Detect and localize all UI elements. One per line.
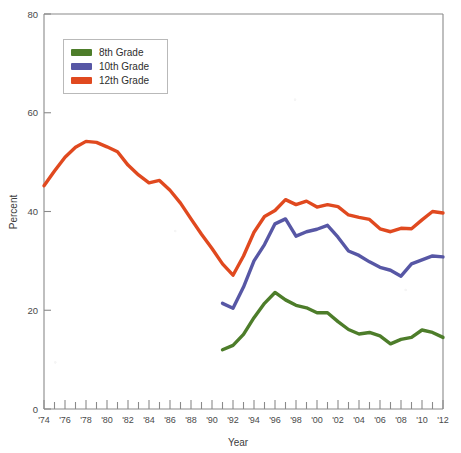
- x-tick-label: '74: [38, 415, 50, 425]
- x-tick-label: '96: [269, 415, 281, 425]
- y-tick-label: 60: [27, 107, 38, 118]
- legend-item-10th-grade: 10th Grade: [71, 60, 161, 73]
- x-tick-label: '04: [353, 415, 365, 425]
- x-tick-label: '00: [311, 415, 323, 425]
- chart-container: 020406080 '74'76'78'80'82'84'86'88'90'92…: [0, 0, 461, 453]
- data-series-group: [44, 141, 443, 349]
- legend-swatch-10th-grade: [71, 63, 92, 70]
- x-tick-label: '86: [164, 415, 176, 425]
- legend-label-12th-grade: 12th Grade: [99, 74, 149, 87]
- x-tick-label: '98: [290, 415, 302, 425]
- x-tick-label: '90: [206, 415, 218, 425]
- x-tick-label: '02: [332, 415, 344, 425]
- series-line-8th-grade: [223, 292, 444, 349]
- x-tick-label: '10: [416, 415, 428, 425]
- y-tick-label: 0: [33, 404, 38, 415]
- y-tick-label: 20: [27, 305, 38, 316]
- series-line-12th-grade: [44, 141, 443, 275]
- legend-swatch-12th-grade: [71, 77, 92, 84]
- chart-legend: 8th Grade 10th Grade 12th Grade: [63, 39, 168, 94]
- legend-swatch-8th-grade: [71, 49, 92, 56]
- legend-item-12th-grade: 12th Grade: [71, 74, 161, 87]
- legend-label-10th-grade: 10th Grade: [99, 60, 149, 73]
- x-tick-labels: '74'76'78'80'82'84'86'88'90'92'94'96'98'…: [38, 415, 449, 425]
- y-tick-label: 40: [27, 206, 38, 217]
- x-axis-title: Year: [228, 437, 249, 448]
- y-tick-label: 80: [27, 9, 38, 20]
- legend-label-8th-grade: 8th Grade: [99, 46, 143, 59]
- x-tick-label: '84: [143, 415, 155, 425]
- legend-item-8th-grade: 8th Grade: [71, 46, 161, 59]
- y-tick-labels: 020406080: [27, 9, 38, 415]
- x-tick-label: '78: [80, 415, 92, 425]
- y-axis-title: Percent: [8, 195, 19, 230]
- x-tick-label: '06: [374, 415, 386, 425]
- x-tick-label: '82: [122, 415, 134, 425]
- x-tick-label: '92: [227, 415, 239, 425]
- x-tick-label: '88: [185, 415, 197, 425]
- x-tick-label: '76: [59, 415, 71, 425]
- x-tick-label: '80: [101, 415, 113, 425]
- x-tick-label: '08: [395, 415, 407, 425]
- x-tick-label: '94: [248, 415, 260, 425]
- x-tick-label: '12: [437, 415, 449, 425]
